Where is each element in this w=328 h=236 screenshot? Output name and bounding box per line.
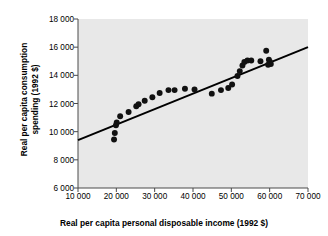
x-tick-label: 70 000: [285, 192, 328, 201]
y-tick-label: 12 000: [30, 99, 74, 108]
y-axis-ticks: [74, 19, 78, 188]
scatter-point: [209, 91, 215, 97]
y-tick-label: 16 000: [30, 43, 74, 52]
scatter-point: [111, 136, 117, 142]
plot-background: [78, 19, 308, 188]
scatter-point: [265, 62, 271, 68]
y-tick-label: 18 000: [30, 15, 74, 24]
scatter-point: [142, 98, 148, 104]
y-tick-label: 8 000: [30, 155, 74, 164]
scatter-point: [257, 58, 263, 64]
scatter-point: [218, 87, 224, 93]
scatter-point: [263, 48, 269, 54]
scatter-point: [114, 120, 120, 126]
scatter-point: [237, 68, 243, 74]
chart-figure: Real per capita consumption spending (19…: [0, 0, 328, 236]
scatter-point: [126, 109, 132, 115]
scatter-point: [136, 101, 142, 107]
scatter-point: [112, 130, 118, 136]
scatter-point: [149, 94, 155, 100]
scatter-point: [165, 87, 171, 93]
y-tick-label: 14 000: [30, 71, 74, 80]
x-axis-title: Real per capita personal disposable inco…: [0, 218, 328, 228]
scatter-point: [229, 82, 235, 88]
scatter-point: [182, 86, 188, 92]
x-axis-tick-labels: 10 000 20 000 30 000 40 000 50 000 60 00…: [0, 192, 328, 206]
scatter-point: [172, 87, 178, 93]
scatter-point: [157, 90, 163, 96]
y-tick-label: 10 000: [30, 127, 74, 136]
scatter-point: [192, 86, 198, 92]
scatter-point: [248, 58, 254, 64]
scatter-point: [117, 113, 123, 119]
